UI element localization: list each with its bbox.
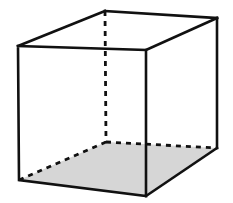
top-face-right-edge: [146, 18, 217, 50]
cuboid-diagram: [0, 0, 233, 203]
cuboid-figure: [0, 0, 233, 203]
hidden-vertical-edge: [105, 11, 106, 142]
top-face-back-edge: [105, 11, 217, 18]
top-face-left-edge: [18, 11, 105, 46]
